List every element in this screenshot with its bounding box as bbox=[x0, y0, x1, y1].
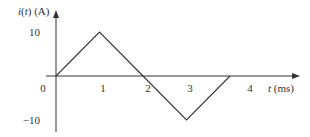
x-tick-label: 0 bbox=[40, 82, 46, 94]
y-tick-label: 10 bbox=[29, 26, 41, 38]
x-axis-title: t (ms) bbox=[268, 82, 294, 95]
x-tick-label: 2 bbox=[145, 82, 151, 94]
x-tick-label: 1 bbox=[100, 82, 106, 94]
chart: 0123410−10i(t) (A)t (ms) bbox=[0, 0, 310, 137]
x-axis-arrowhead bbox=[292, 73, 300, 79]
axes bbox=[46, 10, 300, 132]
x-tick-label: 4 bbox=[247, 82, 253, 94]
y-tick-label: −10 bbox=[23, 114, 41, 126]
y-axis-arrowhead bbox=[53, 10, 59, 18]
y-axis-title: i(t) (A) bbox=[18, 5, 50, 18]
x-tick-label: 3 bbox=[187, 82, 193, 94]
labels: 0123410−10i(t) (A)t (ms) bbox=[18, 5, 294, 126]
